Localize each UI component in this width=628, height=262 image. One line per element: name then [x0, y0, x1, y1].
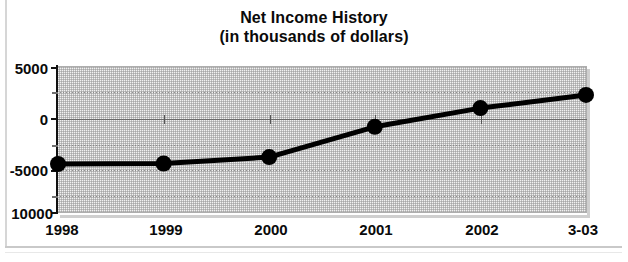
data-point-3-03	[578, 87, 594, 103]
series-line-net-income	[58, 95, 586, 164]
data-point-2001	[367, 119, 383, 135]
data-point-1999	[156, 156, 172, 172]
data-point-2002	[472, 100, 488, 116]
line-chart: 5000 0 -5000 10000 1998 1999 2000 2001 2…	[0, 0, 628, 262]
series-layer	[0, 0, 628, 262]
data-point-2000	[261, 149, 277, 165]
series-markers	[50, 87, 594, 172]
figure-page: Net Income History (in thousands of doll…	[0, 0, 628, 262]
data-point-1998	[50, 156, 66, 172]
